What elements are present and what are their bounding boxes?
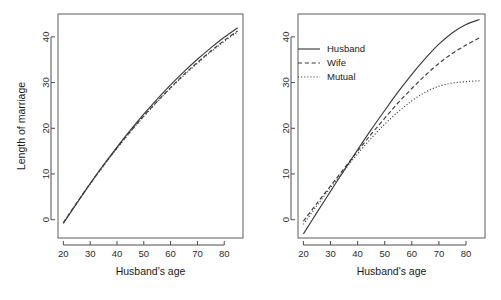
chart-panel-right: 20304050607080Husband's age010203040Husb… <box>250 0 501 300</box>
y-axis-title: Length of marriage <box>15 82 27 170</box>
legend: HusbandWifeMutual <box>298 43 365 82</box>
x-tick-label: 50 <box>379 248 390 259</box>
x-tick-label: 70 <box>434 248 445 259</box>
x-tick-label: 20 <box>298 248 309 259</box>
x-axis: 20304050607080 <box>58 241 229 259</box>
x-tick-label: 80 <box>461 248 472 259</box>
y-tick-label: 40 <box>40 32 51 43</box>
y-tick-label: 20 <box>40 123 51 134</box>
legend-label-mutual: Mutual <box>327 71 356 82</box>
y-axis: 010203040 <box>40 32 55 223</box>
x-axis-title: Husband's age <box>357 265 427 277</box>
x-tick-label: 30 <box>325 248 336 259</box>
legend-label-husband: Husband <box>327 43 365 54</box>
x-tick-label: 20 <box>58 248 69 259</box>
x-tick-label: 40 <box>112 248 123 259</box>
curve-mutual <box>63 32 237 223</box>
curves-group <box>63 28 237 224</box>
plot-right: 20304050607080Husband's age010203040Husb… <box>250 0 501 300</box>
y-axis: 010203040 <box>280 32 295 223</box>
x-tick-label: 80 <box>219 248 230 259</box>
y-tick-label: 40 <box>280 32 291 43</box>
x-axis-title: Husband's age <box>116 265 186 277</box>
y-tick-label: 20 <box>280 123 291 134</box>
y-tick-label: 0 <box>280 217 291 222</box>
x-tick-label: 70 <box>192 248 203 259</box>
y-tick-label: 0 <box>40 217 51 222</box>
curve-husband <box>63 28 237 224</box>
plot-left: 20304050607080Husband's age010203040Leng… <box>0 0 250 300</box>
x-tick-label: 50 <box>139 248 150 259</box>
y-tick-label: 30 <box>280 77 291 88</box>
x-tick-label: 60 <box>165 248 176 259</box>
x-tick-label: 40 <box>352 248 363 259</box>
curve-mutual <box>303 81 479 225</box>
curve-wife <box>63 31 237 223</box>
y-tick-label: 10 <box>280 169 291 180</box>
figure-canvas: 20304050607080Husband's age010203040Leng… <box>0 0 501 300</box>
y-tick-label: 10 <box>40 169 51 180</box>
y-tick-label: 30 <box>40 77 51 88</box>
x-axis: 20304050607080 <box>298 241 471 259</box>
x-tick-label: 30 <box>85 248 96 259</box>
legend-label-wife: Wife <box>327 57 346 68</box>
chart-panel-left: 20304050607080Husband's age010203040Leng… <box>0 0 250 300</box>
x-tick-label: 60 <box>407 248 418 259</box>
